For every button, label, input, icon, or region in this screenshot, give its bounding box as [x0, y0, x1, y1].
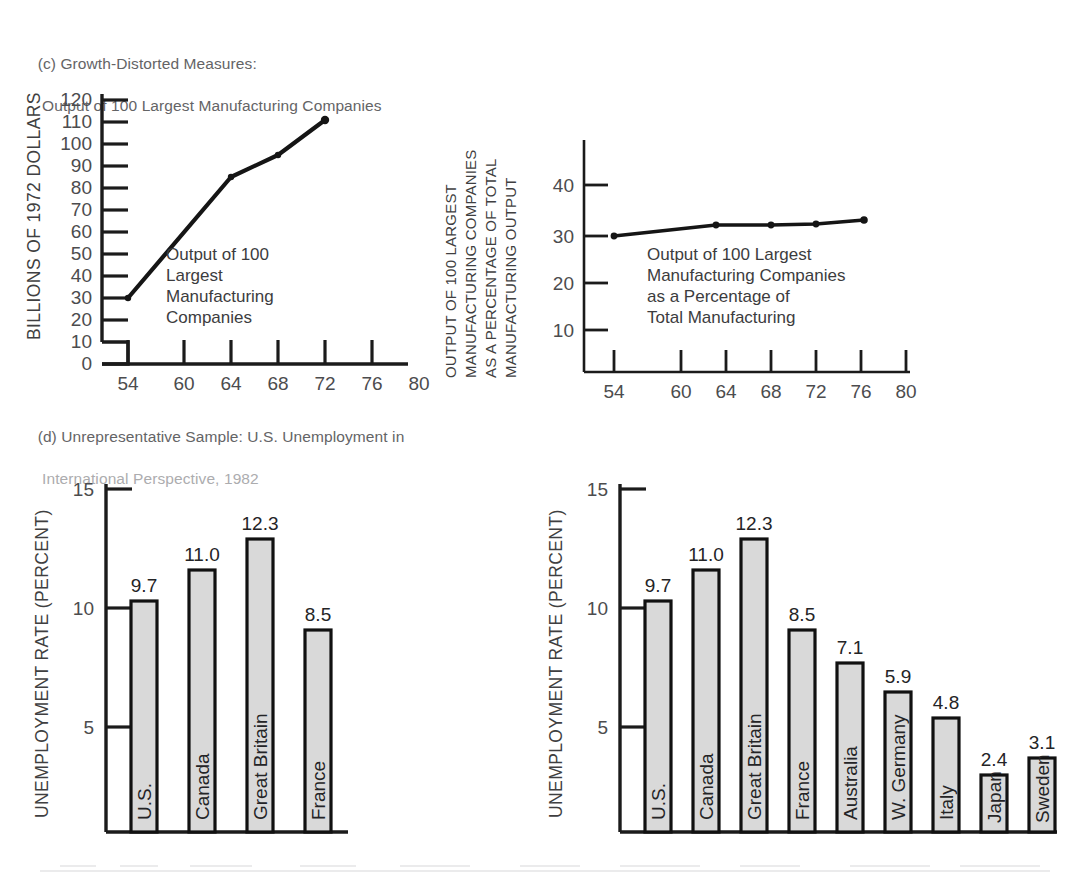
bar-value-label: 9.7: [131, 575, 157, 596]
x-tick-label: 54: [117, 373, 139, 394]
data-point: [275, 152, 281, 158]
y-axis-title: UNEMPLOYMENT RATE (PERCENT): [546, 509, 566, 818]
bar-category-label: Italy: [936, 785, 957, 820]
bar-value-label: 3.1: [1029, 732, 1055, 753]
x-tick-label: 64: [715, 381, 737, 402]
y-axis-title-line: OUTPUT OF 100 LARGEST: [442, 184, 459, 378]
chart-annotation: Output of 100 Largest Manufacturing Comp…: [166, 245, 274, 327]
y-tick-label: 30: [553, 226, 574, 247]
x-tick-label: 64: [220, 373, 242, 394]
bar-category-label: Canada: [192, 753, 213, 820]
annotation-line: Manufacturing Companies: [647, 266, 845, 285]
bar-value-label: 11.0: [688, 544, 724, 565]
bar-category-label: France: [308, 761, 329, 820]
x-tick-label: 60: [173, 373, 194, 394]
y-tick-label: 15: [73, 479, 94, 500]
x-ticks: [614, 350, 906, 372]
bar-value-label: 8.5: [789, 604, 815, 625]
x-tick-label: 76: [850, 381, 871, 402]
scan-artifact-row: [0, 862, 1092, 874]
y-tick-label: 50: [71, 243, 92, 264]
bar-value-label: 5.9: [885, 666, 911, 687]
y-tick-label: 20: [71, 309, 92, 330]
bar-value-label: 4.8: [933, 692, 959, 713]
x-tick-label: 80: [895, 381, 916, 402]
y-tick-label: 40: [553, 175, 574, 196]
bar-category-label: Japan: [984, 771, 1005, 823]
bar-value-label: 7.1: [837, 637, 863, 658]
caption-d-line1: (d) Unrepresentative Sample: U.S. Unempl…: [38, 428, 405, 445]
y-axis-title-line: MANUFACTURING COMPANIES: [462, 149, 479, 378]
y-tick-label: 20: [553, 273, 574, 294]
y-tick-label: 15: [587, 479, 608, 500]
x-ticks: [128, 340, 372, 364]
bar-value-label: 11.0: [184, 544, 220, 565]
y-tick-label: 5: [83, 717, 94, 738]
data-point: [321, 116, 329, 124]
bar-value-label: 9.7: [645, 575, 671, 596]
y-tick-label: 5: [597, 717, 608, 738]
bar-category-label: Canada: [696, 753, 717, 820]
chart-panel-d-right: UNEMPLOYMENT RATE (PERCENT) 15 10 5 9.7 …: [532, 468, 1077, 868]
y-axis-title-line: MANUFACTURING OUTPUT: [502, 177, 519, 378]
bar-value-label: 8.5: [305, 604, 331, 625]
annotation-line: Output of 100: [166, 245, 269, 264]
annotation-line: Companies: [166, 308, 252, 327]
x-tick-label: 54: [603, 381, 625, 402]
y-tick-label: 110: [62, 111, 92, 132]
annotation-line: Output of 100 Largest: [647, 245, 812, 264]
x-tick-label: 68: [760, 381, 781, 402]
y-tick-label: 120: [60, 89, 92, 110]
chart-panel-c-left: BILLIONS OF 1972 DOLLARS 120 110 100 90 …: [18, 78, 418, 398]
bar-category-label: W. Germany: [888, 714, 909, 820]
data-point: [860, 216, 868, 224]
y-tick-label: 80: [71, 177, 92, 198]
chart-c-left-svg: BILLIONS OF 1972 DOLLARS 120 110 100 90 …: [18, 78, 418, 398]
y-tick-label: 90: [71, 155, 92, 176]
caption-c-line1: (c) Growth-Distorted Measures:: [38, 55, 257, 72]
y-tick-label: 70: [71, 199, 92, 220]
chart-annotation: Output of 100 Largest Manufacturing Comp…: [647, 245, 845, 327]
y-ticks: [584, 185, 608, 330]
y-ticks: [106, 489, 132, 727]
y-tick-label: 40: [71, 265, 92, 286]
bar-value-label: 12.3: [736, 513, 773, 534]
bar-category-label: Great Britain: [744, 713, 765, 820]
chart-panel-c-right: OUTPUT OF 100 LARGEST MANUFACTURING COMP…: [432, 78, 932, 398]
y-tick-label: 30: [71, 287, 92, 308]
annotation-line: as a Percentage of: [647, 287, 790, 306]
bar-category-label: Australia: [840, 746, 861, 820]
y-ticks: [102, 100, 128, 320]
bar-category-label: Great Britain: [250, 713, 271, 820]
data-line: [614, 220, 864, 236]
x-tick-label: 60: [670, 381, 691, 402]
bar-category-label: Sweden: [1032, 754, 1053, 823]
chart-panel-d-left: UNEMPLOYMENT RATE (PERCENT) 15 10 5 9.7 …: [18, 468, 378, 868]
figure-page: (c) Growth-Distorted Measures: Output of…: [0, 0, 1092, 874]
bar-value-label: 12.3: [242, 513, 279, 534]
x-tick-label: 80: [408, 373, 429, 394]
y-tick-label: 0: [81, 353, 92, 374]
data-point: [228, 174, 234, 180]
bar-category-label: France: [792, 761, 813, 820]
bar-group: 9.7 U.S. 11.0 Canada 12.3 Great Britain …: [645, 513, 1055, 832]
x-tick-label: 72: [314, 373, 335, 394]
y-tick-label: 10: [553, 320, 574, 341]
chart-d-right-svg: UNEMPLOYMENT RATE (PERCENT) 15 10 5 9.7 …: [532, 468, 1077, 868]
annotation-line: Largest: [166, 266, 223, 285]
bar-category-label: U.S.: [134, 783, 155, 820]
y-axis-title: OUTPUT OF 100 LARGEST MANUFACTURING COMP…: [442, 149, 519, 378]
annotation-line: Manufacturing: [166, 287, 274, 306]
data-point: [611, 233, 618, 240]
y-tick-label: 100: [60, 133, 92, 154]
y-axis-title: BILLIONS OF 1972 DOLLARS: [24, 92, 44, 340]
bar-value-label: 2.4: [981, 749, 1008, 770]
chart-d-left-svg: UNEMPLOYMENT RATE (PERCENT) 15 10 5 9.7 …: [18, 468, 378, 868]
y-tick-label: 10: [71, 331, 92, 352]
data-point: [125, 295, 131, 301]
data-line: [128, 120, 325, 298]
x-tick-label: 76: [361, 373, 382, 394]
y-axis-title-line: AS A PERCENTAGE OF TOTAL: [482, 158, 499, 378]
bar-category-label: U.S.: [648, 783, 669, 820]
y-tick-label: 60: [71, 221, 92, 242]
